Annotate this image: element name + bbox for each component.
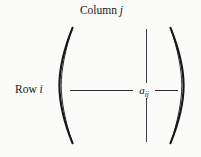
row-label-text: Row bbox=[15, 83, 37, 95]
row-indicator-line-right bbox=[155, 90, 178, 91]
row-label-variable: i bbox=[40, 83, 43, 95]
matrix-element-subscript: ij bbox=[145, 90, 149, 99]
column-label-variable: j bbox=[120, 4, 123, 16]
matrix-element-figure: Column j Row i aij bbox=[0, 0, 201, 157]
column-label-text: Column bbox=[80, 4, 117, 16]
row-indicator-line-left bbox=[70, 90, 133, 91]
matrix-element-label: aij bbox=[134, 83, 154, 98]
row-label: Row i bbox=[15, 84, 43, 96]
left-parenthesis-icon bbox=[58, 27, 78, 144]
column-label: Column j bbox=[0, 5, 201, 17]
column-label-inner: Column j bbox=[78, 5, 123, 17]
right-parenthesis-icon bbox=[165, 27, 185, 144]
